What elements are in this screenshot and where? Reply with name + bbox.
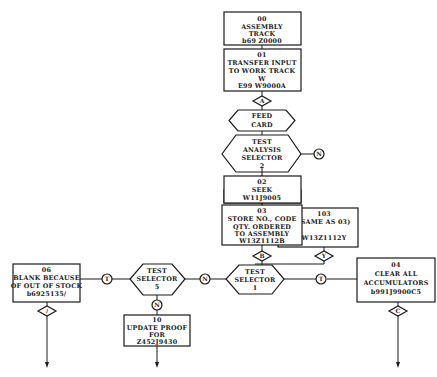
t-connector-layer (0, 0, 437, 377)
